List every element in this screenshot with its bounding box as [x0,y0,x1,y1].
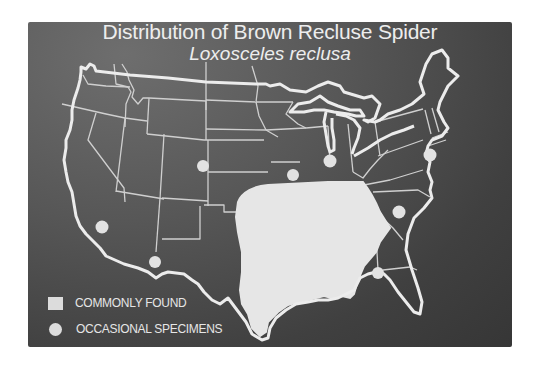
marker-illinois-chicago [324,155,337,168]
circle-swatch-icon [49,323,62,336]
marker-wyoming [197,160,209,172]
square-swatch-icon [48,297,63,310]
map-frame: Distribution of Brown Recluse Spider Lox… [28,22,512,347]
legend-item-occasional-specimens: OCCASIONAL SPECIMENS [48,316,222,342]
marker-new-jersey [424,149,437,162]
marker-north-carolina [393,206,406,219]
legend-item-commonly-found: COMMONLY FOUND [48,290,222,316]
marker-southern-california [96,221,109,234]
marker-northern-florida [372,267,384,279]
legend: COMMONLY FOUND OCCASIONAL SPECIMENS [48,290,222,342]
legend-label: COMMONLY FOUND [75,296,186,310]
legend-label: OCCASIONAL SPECIMENS [76,322,222,336]
marker-iowa [287,169,299,181]
marker-southern-arizona [149,256,161,268]
great-lakes [290,96,414,156]
commonly-found-region [236,182,390,336]
